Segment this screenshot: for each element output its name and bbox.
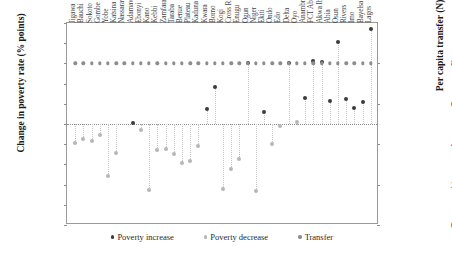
x-axis-category-label: Adamawa [127,0,135,23]
data-point-stem [346,99,347,124]
data-point-poverty-increase [303,96,307,100]
data-point-stem [174,124,175,154]
data-point-stem [223,124,224,189]
data-point-stem [190,124,191,161]
data-point-transfer [90,62,93,65]
data-point-transfer [131,62,134,65]
x-axis-category-label: Kwara [201,4,209,23]
x-axis-category-label: Bauchi [77,3,85,23]
data-point-transfer [106,62,109,65]
data-point-poverty-decrease [229,167,233,171]
data-point-poverty-decrease [278,124,282,128]
legend-marker-icon [111,235,115,239]
data-point-transfer [279,62,282,65]
y-axis-left-tickmark [64,225,67,226]
data-point-poverty-decrease [221,187,225,191]
x-axis-category-label: Ogun [242,7,250,23]
data-point-stem [198,124,199,146]
y-axis-right-tickmark [377,144,380,145]
data-point-poverty-decrease [254,189,258,193]
data-point-transfer [98,62,101,65]
data-point-stem [322,62,323,124]
data-point-stem [116,124,117,153]
data-point-poverty-increase [213,85,217,89]
legend-label: Transfer [305,232,334,242]
data-point-stem [256,124,257,191]
data-point-transfer [344,62,347,65]
data-point-transfer [361,62,364,65]
data-point-poverty-increase [205,107,209,111]
data-point-poverty-decrease [73,141,77,145]
x-axis-category-label: Imo [348,12,356,23]
data-point-transfer [230,62,233,65]
data-point-transfer [295,62,298,65]
legend-item: Poverty increase [111,232,174,242]
data-point-transfer [312,62,315,65]
data-point-poverty-decrease [237,157,241,161]
x-axis-category-label: Akwa Ibom [316,0,324,23]
data-point-transfer [271,62,274,65]
data-point-transfer [205,62,208,65]
data-point-transfer [320,62,323,65]
zero-line [67,124,377,125]
data-point-transfer [164,62,167,65]
data-point-transfer [172,62,175,65]
data-point-poverty-decrease [155,148,159,152]
y-axis-left-tickmark [64,185,67,186]
data-point-stem [239,124,240,159]
x-axis-category-label: Bayelsa [357,1,365,23]
data-point-poverty-increase [336,40,340,44]
chart-legend: Poverty increasePoverty decreaseTransfer [66,232,378,242]
data-point-poverty-decrease [270,142,274,146]
legend-label: Poverty increase [117,232,173,242]
x-axis-category-label: Kebbi [151,6,159,23]
x-axis-category-label: Benue [176,5,184,23]
x-axis-category-label: Enugu [233,5,241,23]
x-axis-category-label: Zamfara [160,0,168,23]
y-axis-left-tickmark [64,205,67,206]
data-point-transfer [213,62,216,65]
data-point-poverty-decrease [114,151,118,155]
data-point-poverty-increase [344,97,348,101]
data-point-stem [248,63,249,124]
x-axis-category-label: Oyo [291,11,299,23]
x-axis-category-label: Delta [283,8,291,23]
x-axis-category-label: Kaduna [192,1,200,23]
data-point-transfer [197,62,200,65]
x-axis-category-label: Osun [332,8,340,23]
legend-item: Poverty decrease [204,232,268,242]
legend-marker-icon [204,235,208,239]
data-point-poverty-decrease [139,128,143,132]
legend-item: Transfer [298,232,333,242]
x-axis-category-label: Jigawa [69,4,77,23]
data-point-stem [305,98,306,124]
data-point-transfer [74,62,77,65]
data-point-stem [157,124,158,150]
data-point-transfer [82,62,85,65]
data-point-poverty-decrease [172,152,176,156]
data-point-poverty-decrease [81,137,85,141]
data-point-transfer [369,62,372,65]
y-axis-left-tickmark [64,124,67,125]
data-point-stem [182,124,183,163]
data-point-transfer [115,62,118,65]
data-point-poverty-decrease [295,120,299,124]
data-point-stem [371,29,372,124]
x-axis-category-label: Ekiti [258,10,266,23]
data-point-stem [231,124,232,169]
data-point-transfer [303,62,306,65]
x-axis-category-label: FCT Abuja [307,0,315,23]
x-axis-category-label: Abia [324,9,332,23]
x-axis-category-label: Yobe [102,9,110,23]
chart-figure: Change in poverty rate (% points) Per ca… [0,0,452,256]
data-point-stem [108,124,109,176]
data-point-poverty-increase [262,110,266,114]
data-point-stem [289,63,290,124]
data-point-stem [272,124,273,144]
data-point-stem [330,101,331,124]
data-point-stem [338,42,339,124]
data-point-transfer [147,62,150,65]
y-axis-right-tickmark [377,63,380,64]
x-axis-category-label: Anambra [299,0,307,23]
data-point-stem [363,102,364,124]
